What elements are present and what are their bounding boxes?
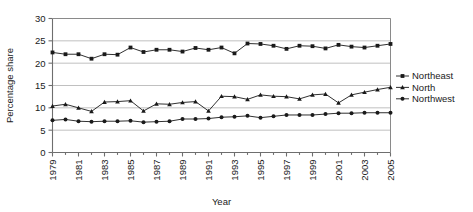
datapoint-northeast-1993: [233, 51, 237, 55]
datapoint-northeast-1991: [207, 48, 211, 52]
chart-figure: 0510152025301979198119831985198719891991…: [0, 0, 473, 212]
datapoint-northwest-1991: [207, 117, 211, 121]
datapoint-northeast-2000: [324, 47, 328, 51]
datapoint-northwest-1985: [129, 119, 133, 123]
datapoint-northwest-1986: [142, 120, 146, 124]
legend-marker-northwest: [401, 97, 405, 101]
datapoint-northeast-1980: [64, 52, 68, 56]
datapoint-northwest-2000: [324, 112, 328, 116]
line-chart: 0510152025301979198119831985198719891991…: [0, 0, 473, 212]
xtick-label-1983: 1983: [99, 160, 110, 181]
datapoint-northwest-2001: [337, 111, 341, 115]
datapoint-northwest-1983: [103, 119, 107, 123]
datapoint-northwest-1994: [246, 114, 250, 118]
datapoint-northeast-1992: [220, 46, 224, 50]
datapoint-northeast-1987: [155, 48, 159, 52]
legend-marker-northeast: [401, 74, 405, 78]
datapoint-north-2001: [336, 101, 341, 105]
xtick-label-1987: 1987: [151, 160, 162, 181]
datapoint-northeast-1986: [142, 50, 146, 54]
legend-label-northwest: Northwest: [412, 93, 455, 104]
ytick-label-20: 20: [35, 58, 46, 69]
xtick-label-1989: 1989: [177, 160, 188, 181]
datapoint-northwest-1988: [168, 119, 172, 123]
xtick-label-1997: 1997: [281, 160, 292, 181]
datapoint-northwest-1984: [116, 119, 120, 123]
datapoint-northwest-1987: [155, 120, 159, 124]
datapoint-northwest-1999: [311, 113, 315, 117]
datapoint-northwest-1982: [90, 120, 94, 124]
datapoint-northwest-1995: [259, 116, 263, 120]
datapoint-northwest-1979: [51, 118, 55, 122]
datapoint-northwest-1993: [233, 115, 237, 119]
datapoint-northwest-2005: [389, 111, 393, 115]
xtick-label-1993: 1993: [229, 160, 240, 181]
datapoint-northeast-1996: [272, 44, 276, 48]
legend-label-north: North: [412, 82, 435, 93]
datapoint-northeast-1999: [311, 44, 315, 48]
xtick-label-2005: 2005: [385, 160, 396, 181]
datapoint-northeast-1990: [194, 46, 198, 50]
datapoint-northwest-1992: [220, 115, 224, 119]
datapoint-northeast-1983: [103, 52, 107, 56]
datapoint-northeast-1989: [181, 50, 185, 54]
ytick-label-30: 30: [35, 13, 46, 24]
ytick-label-15: 15: [35, 80, 46, 91]
datapoint-northwest-1996: [272, 114, 276, 118]
datapoint-northeast-1995: [259, 42, 263, 46]
datapoint-northeast-1994: [246, 42, 250, 46]
xtick-label-1985: 1985: [125, 160, 136, 181]
ytick-label-25: 25: [35, 35, 46, 46]
xtick-label-1991: 1991: [203, 160, 214, 181]
legend-label-northeast: Northeast: [412, 70, 454, 81]
datapoint-northwest-2003: [363, 111, 367, 115]
datapoint-northeast-2003: [363, 46, 367, 50]
x-axis-title: Year: [212, 196, 231, 207]
datapoint-northeast-1984: [116, 53, 120, 57]
xtick-label-2003: 2003: [359, 160, 370, 181]
datapoint-northeast-1998: [298, 44, 302, 48]
xtick-label-1999: 1999: [307, 160, 318, 181]
datapoint-northeast-1988: [168, 48, 172, 52]
datapoint-northeast-2002: [350, 45, 354, 49]
datapoint-northwest-1981: [77, 119, 81, 123]
datapoint-northeast-2004: [376, 44, 380, 48]
datapoint-northwest-2004: [376, 111, 380, 115]
xtick-label-1979: 1979: [47, 160, 58, 181]
ytick-label-5: 5: [40, 125, 45, 136]
xtick-label-1995: 1995: [255, 160, 266, 181]
xtick-label-2001: 2001: [333, 160, 344, 181]
datapoint-northeast-2005: [389, 42, 393, 46]
datapoint-northeast-1982: [90, 57, 94, 61]
datapoint-northeast-1979: [51, 51, 55, 55]
datapoint-northwest-2002: [350, 111, 354, 115]
datapoint-northeast-1985: [129, 46, 133, 50]
xtick-label-1981: 1981: [73, 160, 84, 181]
datapoint-northeast-2001: [337, 43, 341, 47]
datapoint-northwest-1997: [285, 113, 289, 117]
datapoint-northeast-1981: [77, 52, 81, 56]
y-axis-title: Percentage share: [4, 48, 15, 123]
ytick-label-10: 10: [35, 102, 46, 113]
datapoint-northwest-1980: [64, 117, 68, 121]
ytick-label-0: 0: [40, 147, 45, 158]
datapoint-northwest-1990: [194, 117, 198, 121]
datapoint-northwest-1998: [298, 113, 302, 117]
datapoint-northwest-1989: [181, 117, 185, 121]
datapoint-northeast-1997: [285, 47, 289, 51]
